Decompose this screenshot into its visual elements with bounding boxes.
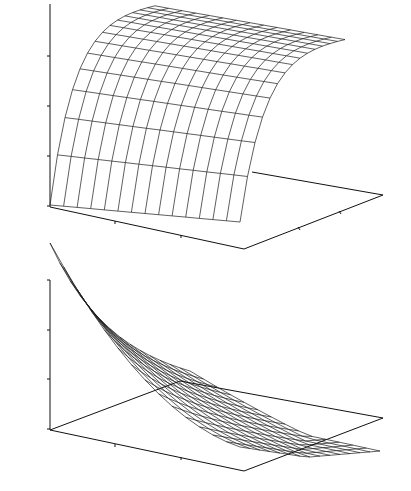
chart-b-x-ticks (115, 444, 181, 460)
figure (0, 0, 411, 491)
chart-b-surface-mesh (50, 243, 380, 457)
chart-a-back-edge (252, 172, 383, 195)
chart-a-y-axis (244, 195, 383, 249)
chart-a-x-axis (50, 207, 244, 249)
chart-b-back-axis (50, 381, 180, 430)
chart-a (47, 4, 383, 249)
chart-b (47, 243, 383, 471)
chart-a-surface-mesh (50, 6, 345, 222)
